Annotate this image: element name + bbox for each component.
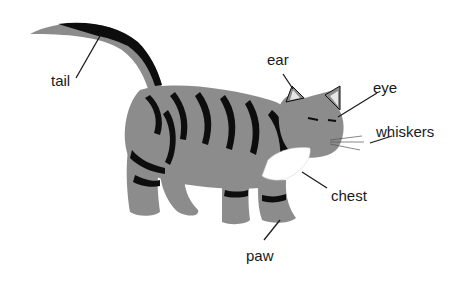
label-ear: ear — [267, 52, 289, 67]
label-whiskers: whiskers — [376, 124, 434, 139]
label-paw: paw — [246, 248, 274, 263]
cat-front-leg-back — [222, 180, 250, 224]
cat-illustration — [0, 0, 465, 285]
label-eye: eye — [373, 80, 397, 95]
cat-diagram: tail ear eye whiskers chest paw — [0, 0, 465, 285]
label-chest: chest — [331, 188, 367, 203]
label-tail: tail — [51, 73, 70, 88]
